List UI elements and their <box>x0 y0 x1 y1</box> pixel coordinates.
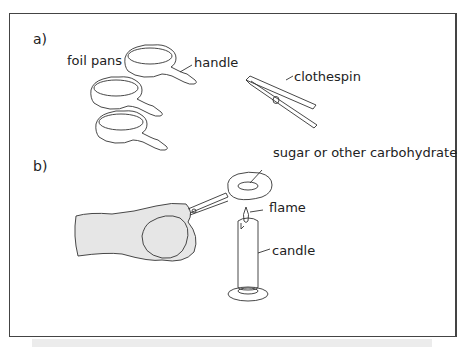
callout-handle: handle <box>194 56 238 69</box>
foil-pan-icon <box>96 111 167 151</box>
callout-sugar: sugar or other carbohydrate <box>273 146 457 159</box>
candle-icon <box>228 218 270 301</box>
foil-pan-icon <box>91 77 162 117</box>
panel-label-b: b) <box>33 159 47 173</box>
foil-pan-over-flame-icon <box>228 170 272 200</box>
callout-clothespin: clothespin <box>294 70 361 83</box>
foil-pan-icon <box>125 45 196 85</box>
callout-foil-pans: foil pans <box>67 54 122 67</box>
clothespin-holding-icon <box>188 193 228 215</box>
callout-flame: flame <box>269 201 306 214</box>
flame-icon <box>243 207 248 223</box>
callout-candle: candle <box>272 244 315 257</box>
oven-mitt-icon <box>75 203 196 261</box>
panel-label-a: a) <box>33 32 47 46</box>
